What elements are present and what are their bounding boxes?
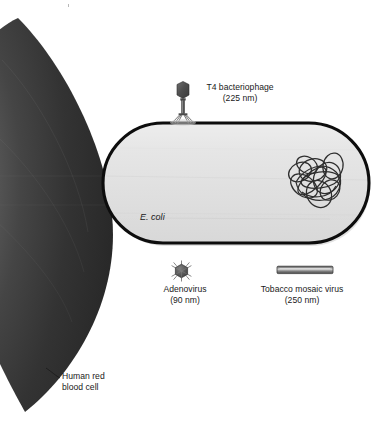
ecoli-label: E. coli <box>140 212 165 223</box>
rbc-line-1: Human red <box>62 371 105 381</box>
ecoli-cell-shape <box>103 123 370 246</box>
diagram-canvas <box>0 0 383 424</box>
adenovirus-size: (90 nm) <box>170 295 200 305</box>
adenovirus-shape <box>172 261 192 282</box>
tobacco-mosaic-virus-shape <box>277 266 333 273</box>
t4-bacteriophage-shape <box>170 82 196 126</box>
tmv-size: (250 nm) <box>285 295 320 305</box>
adenovirus-name: Adenovirus <box>163 284 206 294</box>
t4-bacteriophage-label: T4 bacteriophage (225 nm) <box>194 82 286 104</box>
t4-name: T4 bacteriophage <box>206 82 273 92</box>
red-blood-cell-label: Human red blood cell <box>62 371 132 393</box>
rbc-line-2: blood cell <box>62 382 99 392</box>
human-red-blood-cell-shape <box>0 18 116 412</box>
tobacco-mosaic-virus-label: Tobacco mosaic virus (250 nm) <box>242 284 362 306</box>
adenovirus-label: Adenovirus (90 nm) <box>148 284 222 306</box>
size-comparison-figure: T4 bacteriophage (225 nm) Adenovirus (90… <box>0 0 383 424</box>
tmv-name: Tobacco mosaic virus <box>261 284 344 294</box>
t4-size: (225 nm) <box>223 93 258 103</box>
